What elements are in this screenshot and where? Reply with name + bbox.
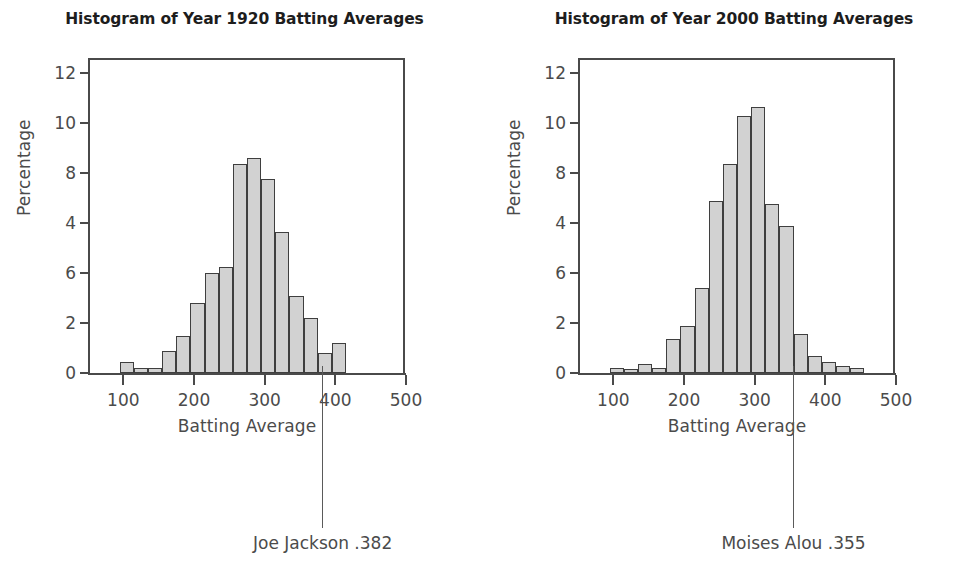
- y-axis-tick-label: 4: [555, 213, 566, 233]
- x-axis-tick-label: 500: [390, 390, 422, 410]
- histogram-bar: [850, 368, 864, 373]
- histogram-bar: [624, 369, 638, 373]
- x-axis-tick-label: 200: [668, 390, 700, 410]
- y-axis-tick: [570, 322, 579, 324]
- y-axis-tick: [80, 372, 89, 374]
- histogram-bar: [680, 326, 694, 374]
- x-axis-tick-label: 400: [319, 390, 351, 410]
- histogram-bar: [219, 267, 233, 373]
- chart-title-1920: Histogram of Year 1920 Batting Averages: [0, 10, 489, 28]
- x-axis-tick: [122, 375, 124, 385]
- y-axis-tick-label: 10: [54, 113, 76, 133]
- y-axis-tick: [570, 272, 579, 274]
- y-axis-tick-label: 10: [544, 113, 566, 133]
- y-axis-tick-label: 2: [555, 313, 566, 333]
- y-axis-tick: [570, 222, 579, 224]
- x-axis-tick: [895, 375, 897, 385]
- histogram-bar: [190, 303, 204, 373]
- y-axis-tick: [570, 72, 579, 74]
- y-axis-tick: [80, 322, 89, 324]
- histogram-bar: [836, 366, 850, 374]
- histogram-bar: [233, 164, 247, 373]
- x-axis-tick: [754, 375, 756, 385]
- x-axis-tick-label: 500: [880, 390, 912, 410]
- y-axis-tick: [80, 72, 89, 74]
- annotation-label-2000: Moises Alou .355: [721, 533, 865, 553]
- annotation-label-1920: Joe Jackson .382: [253, 533, 392, 553]
- histogram-bar: [275, 232, 289, 373]
- histogram-bar: [289, 296, 303, 374]
- y-axis-tick-label: 6: [555, 263, 566, 283]
- bars-1920: [88, 58, 406, 375]
- histogram-bar: [709, 201, 723, 374]
- x-axis-tick-label: 300: [248, 390, 280, 410]
- y-axis-tick: [80, 122, 89, 124]
- x-axis-tick: [334, 375, 336, 385]
- y-axis-tick: [570, 172, 579, 174]
- y-axis-tick: [80, 272, 89, 274]
- y-axis-tick: [80, 222, 89, 224]
- histogram-bar: [318, 353, 332, 373]
- histogram-bar: [822, 362, 836, 373]
- y-axis-tick: [80, 172, 89, 174]
- figure-two-histograms: Histogram of Year 1920 Batting Averages …: [0, 0, 979, 578]
- x-axis-title-2000: Batting Average: [578, 416, 896, 436]
- y-axis-tick-label: 6: [65, 263, 76, 283]
- histogram-bar: [176, 336, 190, 374]
- histogram-bar: [148, 368, 162, 373]
- y-axis-tick-label: 12: [544, 63, 566, 83]
- histogram-bar: [134, 368, 148, 373]
- bars-2000: [578, 58, 896, 375]
- x-axis-tick-label: 200: [178, 390, 210, 410]
- x-axis-tick: [264, 375, 266, 385]
- y-axis-tick: [570, 372, 579, 374]
- histogram-bar: [261, 179, 275, 373]
- y-axis-title-2000: Percentage: [504, 119, 524, 216]
- histogram-bar: [247, 158, 261, 373]
- x-axis-tick: [824, 375, 826, 385]
- y-axis-tick: [570, 122, 579, 124]
- panel-1920: Histogram of Year 1920 Batting Averages …: [0, 0, 489, 578]
- annotation-leader-line-2000: [793, 366, 795, 528]
- y-axis-tick-label: 4: [65, 213, 76, 233]
- x-axis-tick: [405, 375, 407, 385]
- x-axis-tick: [193, 375, 195, 385]
- histogram-bar: [779, 226, 793, 374]
- histogram-bar: [162, 351, 176, 374]
- histogram-bar: [723, 164, 737, 373]
- histogram-bar: [120, 362, 134, 373]
- histogram-bar: [695, 288, 709, 373]
- panel-2000: Histogram of Year 2000 Batting Averages …: [489, 0, 979, 578]
- x-axis-tick-label: 100: [107, 390, 139, 410]
- histogram-bar: [794, 334, 808, 373]
- histogram-bar: [652, 368, 666, 373]
- x-axis-tick-label: 100: [597, 390, 629, 410]
- x-axis-tick: [683, 375, 685, 385]
- histogram-bar: [638, 364, 652, 373]
- y-axis-tick-label: 12: [54, 63, 76, 83]
- histogram-bar: [765, 204, 779, 373]
- histogram-bar: [304, 318, 318, 373]
- histogram-bar: [751, 107, 765, 373]
- x-axis-title-1920: Batting Average: [88, 416, 406, 436]
- histogram-bar: [808, 356, 822, 374]
- histogram-bar: [737, 116, 751, 374]
- histogram-bar: [205, 273, 219, 373]
- histogram-bar: [666, 339, 680, 373]
- y-axis-tick-label: 8: [555, 163, 566, 183]
- histogram-bar: [610, 368, 624, 373]
- histogram-bar: [332, 343, 346, 373]
- y-axis-tick-label: 2: [65, 313, 76, 333]
- x-axis-tick: [612, 375, 614, 385]
- y-axis-tick-label: 8: [65, 163, 76, 183]
- x-axis-tick-label: 300: [738, 390, 770, 410]
- y-axis-tick-label: 0: [555, 363, 566, 383]
- x-axis-tick-label: 400: [809, 390, 841, 410]
- y-axis-tick-label: 0: [65, 363, 76, 383]
- y-axis-title-1920: Percentage: [14, 119, 34, 216]
- chart-title-2000: Histogram of Year 2000 Batting Averages: [489, 10, 979, 28]
